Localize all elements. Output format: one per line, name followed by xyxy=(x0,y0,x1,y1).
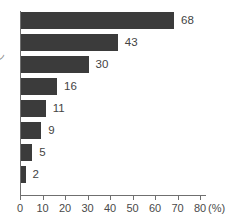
bar-row: 30 xyxy=(21,56,207,73)
bar-chart: ン 01020304050607080 (%) 6843301611952 xyxy=(0,0,241,221)
bar xyxy=(21,78,57,95)
bar-row: 43 xyxy=(21,34,207,51)
bars-layer: 6843301611952 xyxy=(0,0,241,221)
bar xyxy=(21,166,26,183)
bar-value-label: 30 xyxy=(96,57,109,72)
bar-value-label: 9 xyxy=(48,123,54,138)
bar-value-label: 16 xyxy=(64,79,77,94)
bar-value-label: 2 xyxy=(33,167,39,182)
bar-row: 5 xyxy=(21,144,207,161)
bar xyxy=(21,100,46,117)
bar-row: 68 xyxy=(21,12,207,29)
bar-value-label: 11 xyxy=(53,101,65,116)
bar-row: 11 xyxy=(21,100,207,117)
bar-value-label: 43 xyxy=(125,35,138,50)
bar xyxy=(21,12,174,29)
bar-row: 2 xyxy=(21,166,207,183)
bar-value-label: 68 xyxy=(181,13,194,28)
bar xyxy=(21,122,41,139)
bar-row: 9 xyxy=(21,122,207,139)
bar xyxy=(21,144,32,161)
bar xyxy=(21,34,118,51)
bar xyxy=(21,56,89,73)
bar-value-label: 5 xyxy=(39,145,45,160)
bar-row: 16 xyxy=(21,78,207,95)
